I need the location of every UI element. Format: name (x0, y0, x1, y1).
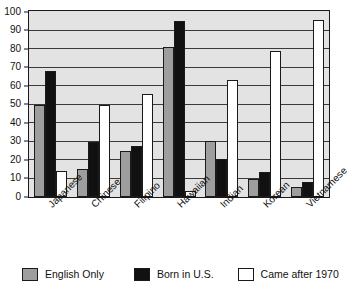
bar (163, 47, 174, 197)
bar (88, 142, 99, 197)
plot-area (28, 10, 330, 198)
x-axis-label-slot: Korean (244, 198, 287, 256)
bar (313, 20, 324, 197)
legend-item-label: English Only (45, 269, 104, 280)
y-axis-tick-label: 10 (10, 173, 21, 183)
bar-group (286, 11, 329, 197)
legend-item[interactable]: English Only (22, 268, 104, 281)
x-axis-label-slot: Hawaiian (157, 198, 200, 256)
y-axis-tick-label: 30 (10, 136, 21, 146)
bar-group (29, 11, 72, 197)
legend-item-label: Born in U.S. (157, 269, 214, 280)
x-axis-label-slot: Chinese (71, 198, 114, 256)
legend-item[interactable]: Born in U.S. (134, 268, 214, 281)
x-axis-label-slot: Vietnamese (287, 198, 330, 256)
bar (174, 21, 185, 197)
y-axis-tick-label: 40 (10, 118, 21, 128)
bar-group (243, 11, 286, 197)
y-axis-tick-label: 70 (10, 62, 21, 72)
y-axis-tick-label: 80 (10, 44, 21, 54)
bar (216, 159, 227, 197)
bar-group (72, 11, 115, 197)
bar (45, 71, 56, 197)
x-axis: JapaneseChineseFilipinoHawaiianIndianKor… (28, 198, 330, 256)
legend-item[interactable]: Came after 1970 (238, 268, 339, 281)
bars-layer (29, 11, 329, 197)
y-axis-tick-label: 60 (10, 81, 21, 91)
bar (270, 51, 281, 197)
bar-group (158, 11, 201, 197)
y-axis-tick-label: 20 (10, 155, 21, 165)
y-axis-tick-label: 100 (4, 7, 21, 17)
bar (34, 105, 45, 198)
y-axis-tick-label: 50 (10, 99, 21, 109)
bar (120, 151, 131, 197)
legend-swatch-icon (238, 268, 254, 281)
y-axis: 1009080706050403020100 (0, 0, 28, 198)
x-axis-label-slot: Filipino (114, 198, 157, 256)
bar-group (115, 11, 158, 197)
legend-item-label: Came after 1970 (261, 269, 339, 280)
bar (248, 179, 259, 198)
bar (227, 80, 238, 197)
bar-group (200, 11, 243, 197)
legend-swatch-icon (134, 268, 150, 281)
bar (291, 187, 302, 197)
y-axis-tick-label: 0 (15, 192, 21, 202)
chart-legend: English OnlyBorn in U.S.Came after 1970 (22, 263, 322, 285)
bar (205, 141, 216, 197)
legend-swatch-icon (22, 268, 38, 281)
x-axis-label-slot: Indian (201, 198, 244, 256)
bar (131, 146, 142, 197)
y-axis-tick-label: 90 (10, 25, 21, 35)
x-axis-label-slot: Japanese (28, 198, 71, 256)
